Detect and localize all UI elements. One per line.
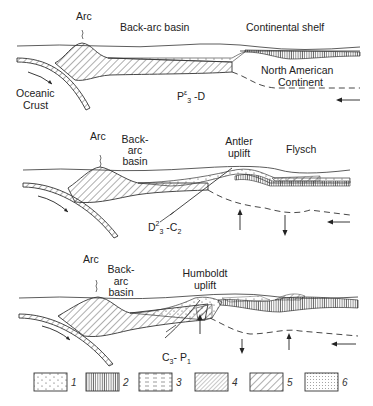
arrow-down-icon	[283, 230, 288, 236]
arc-label: Arc	[90, 131, 106, 142]
arrow-down-icon	[240, 348, 245, 354]
age-label-panel-1: Pε3 -D	[177, 87, 205, 106]
antler-uplift-label-line1: Antler	[222, 136, 256, 147]
volcano-plume-icon	[100, 155, 101, 167]
arrow-left-icon	[327, 220, 333, 225]
humboldt-uplift-label-line2: uplift	[180, 280, 230, 291]
legend-label-1: 1	[71, 377, 77, 388]
volcano-plume-icon	[96, 280, 97, 292]
back-arc-basin-label: Back-arc basin	[120, 22, 189, 33]
age-label-panel-3: C3- P1	[162, 352, 191, 367]
back-arc-label-line3: basin	[107, 287, 135, 298]
oceanic-crust-label-line2: Crust	[23, 100, 48, 111]
continent-label-line2: Continent	[278, 77, 323, 88]
legend-swatch-1	[34, 373, 67, 391]
continental-shelf-label: Continental shelf	[246, 22, 324, 33]
legend-label-3: 3	[176, 377, 182, 388]
legend-label-4: 4	[232, 377, 238, 388]
arrow-up-icon	[287, 333, 292, 339]
arc-and-basin-body	[55, 43, 232, 80]
legend-label-6: 6	[342, 377, 348, 388]
legend-label-2: 2	[123, 377, 129, 388]
legend-swatch-3	[139, 373, 172, 391]
legend-swatch-6	[305, 373, 338, 391]
legend-label-5: 5	[287, 377, 293, 388]
arc-label: Arc	[83, 254, 99, 265]
arrow-left-icon	[336, 98, 342, 103]
volcano-plume-icon	[82, 30, 83, 39]
legend-swatch-2	[86, 373, 119, 391]
flysch-label: Flysch	[286, 144, 316, 155]
legend-swatch-5	[250, 373, 283, 391]
sea-level-line	[17, 44, 360, 50]
back-arc-label-line1: Back-	[107, 264, 135, 275]
arrow-up-icon	[238, 209, 243, 215]
humboldt-uplift-label-line1: Humboldt	[180, 268, 230, 279]
arrow-left-icon	[331, 342, 337, 347]
continent-label-line1: North American	[261, 65, 333, 76]
legend-swatch-4	[195, 373, 228, 391]
arc-label: Arc	[76, 11, 92, 22]
diagram-canvas	[0, 0, 373, 406]
antler-uplift-label-line2: uplift	[222, 148, 256, 159]
age-label-panel-2: D23 -C2	[148, 218, 181, 237]
panel-2-cross-section	[23, 155, 350, 238]
oceanic-crust-label-line1: Oceanic	[16, 88, 55, 99]
back-arc-label-line3: basin	[121, 156, 149, 167]
